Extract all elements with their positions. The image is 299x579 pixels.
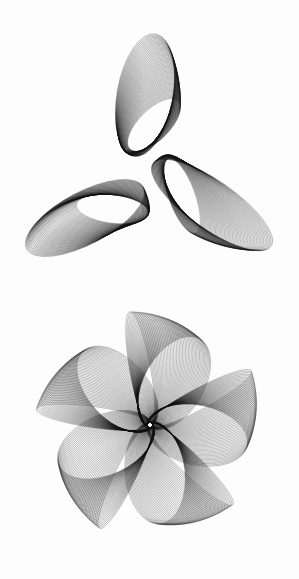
five-petal-figure (35, 310, 261, 533)
three-lobed-figure (15, 29, 285, 272)
string-art-svg (0, 0, 299, 579)
artwork-canvas (0, 0, 299, 579)
